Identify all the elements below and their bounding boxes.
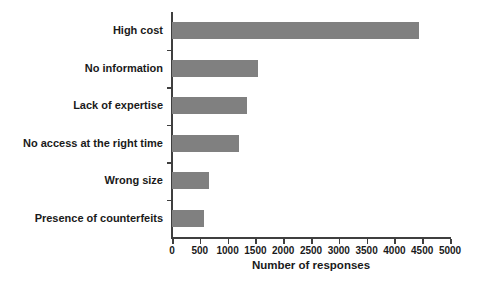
x-axis-tick-label: 2000 [272,245,294,256]
x-axis-tick-label: 0 [169,245,175,256]
x-axis-tick [255,239,257,244]
y-axis-tick [167,125,172,127]
bar-row: Presence of counterfeits [172,200,450,238]
x-axis-tick-label: 4500 [411,245,433,256]
x-axis-tick [200,239,202,244]
x-axis-tick-label: 500 [191,245,208,256]
category-label: Wrong size [105,172,163,189]
bar [172,97,247,114]
bar-row: No information [172,50,450,88]
bar [172,172,209,189]
bar-row: High cost [172,12,450,50]
y-axis-tick [167,200,172,202]
x-axis-tick [172,239,174,244]
x-axis-tick [450,239,452,244]
x-axis-tick-label: 1500 [244,245,266,256]
x-axis-tick [367,239,369,244]
category-label: Presence of counterfeits [35,210,163,227]
bar [172,22,419,39]
x-axis-tick [311,239,313,244]
bar [172,60,258,77]
x-axis-tick [283,239,285,244]
plot-area: High costNo informationLack of expertise… [172,12,450,237]
category-label: Lack of expertise [73,97,163,114]
y-axis-tick [167,162,172,164]
x-axis-tick [394,239,396,244]
bar-chart: High costNo informationLack of expertise… [0,0,479,281]
x-axis-tick [422,239,424,244]
bar [172,210,204,227]
bar-row: Wrong size [172,162,450,200]
x-axis-tick-label: 1000 [216,245,238,256]
y-axis-tick [167,87,172,89]
x-axis-tick-label: 3500 [355,245,377,256]
x-axis-tick-label: 5000 [439,245,461,256]
category-label: No access at the right time [23,135,163,152]
bar-row: No access at the right time [172,125,450,163]
x-axis-tick-label: 3000 [328,245,350,256]
category-label: No information [85,60,163,77]
x-axis-tick [339,239,341,244]
x-axis-title: Number of responses [171,259,451,271]
category-label: High cost [113,22,163,39]
y-axis-tick [167,50,172,52]
bar-row: Lack of expertise [172,87,450,125]
x-axis-tick [228,239,230,244]
bar [172,135,239,152]
x-axis-tick-label: 4000 [383,245,405,256]
x-axis-tick-label: 2500 [300,245,322,256]
